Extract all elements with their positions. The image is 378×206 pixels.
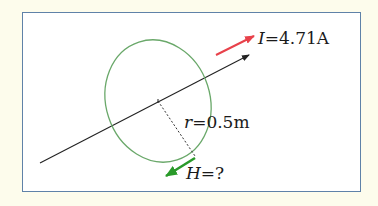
current-label: I=4.71A: [258, 30, 329, 47]
radius-value: 0.5m: [206, 112, 249, 132]
current-value: 4.71A: [279, 28, 329, 48]
radius-symbol: r: [184, 112, 192, 132]
radius-equals: =: [192, 112, 206, 132]
current-wire-axis: [40, 55, 249, 163]
field-label: H=?: [186, 165, 224, 182]
current-direction-arrow-icon: [216, 36, 254, 55]
current-equals: =: [265, 28, 279, 48]
field-symbol: H: [186, 163, 201, 183]
field-value: ?: [215, 163, 224, 183]
radius-label: r=0.5m: [184, 114, 250, 131]
field-equals: =: [201, 163, 215, 183]
current-symbol: I: [258, 28, 265, 48]
